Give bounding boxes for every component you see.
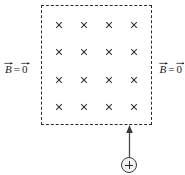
field-cell [72,94,97,122]
field-cell [47,39,72,67]
field-into-page-x-icon [55,21,63,29]
field-cell [47,94,72,122]
field-cell [97,39,122,67]
field-into-page-x-icon [80,21,88,29]
positive-point-charge [121,157,137,173]
field-mark-grid [41,5,152,125]
field-cell [121,66,146,94]
vector-arrow-icon [21,61,30,65]
b-vector-symbol-right: B [160,61,167,75]
field-into-page-x-icon [80,48,88,56]
field-cell [121,39,146,67]
field-cell [97,66,122,94]
field-cell [97,94,122,122]
field-into-page-x-icon [55,76,63,84]
physics-figure: B = 0 B = 0 [0,0,184,175]
b-vector-symbol-left: B [5,61,12,75]
field-into-page-x-icon [105,76,113,84]
b-field-zero-right-label: B = 0 [160,61,182,75]
field-into-page-x-icon [130,21,138,29]
field-into-page-x-icon [130,76,138,84]
field-cell [97,11,122,39]
field-into-page-x-icon [55,48,63,56]
field-cell [121,94,146,122]
zero-vector-symbol-left: 0 [22,61,28,75]
field-cell [121,11,146,39]
vector-arrow-icon [159,61,168,65]
vector-arrow-icon [4,61,13,65]
field-into-page-x-icon [55,103,63,111]
field-cell [47,11,72,39]
field-cell [72,39,97,67]
field-cell [72,11,97,39]
field-into-page-x-icon [105,48,113,56]
plus-sign-vertical-icon [129,161,130,169]
zero-vector-symbol-right: 0 [177,61,183,75]
vector-arrow-icon [176,61,185,65]
field-cell [72,66,97,94]
field-into-page-x-icon [105,21,113,29]
field-into-page-x-icon [105,103,113,111]
field-into-page-x-icon [80,103,88,111]
b-field-zero-left-label: B = 0 [5,61,27,75]
velocity-arrow-icon [125,125,134,160]
field-into-page-x-icon [80,76,88,84]
field-cell [47,66,72,94]
field-into-page-x-icon [130,48,138,56]
field-into-page-x-icon [130,103,138,111]
